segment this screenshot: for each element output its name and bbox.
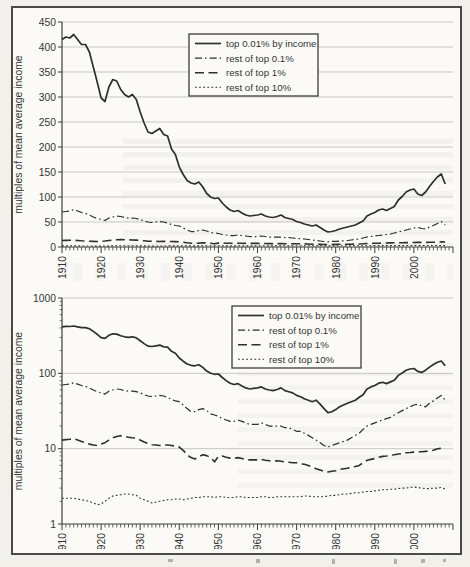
y-tick-label: 350 xyxy=(39,67,56,78)
y-tick-label: 10 xyxy=(45,443,57,454)
x-tick-label: 1910 xyxy=(57,256,68,279)
y-tick-label: 100 xyxy=(39,368,56,379)
x-tick-label: 1970 xyxy=(291,256,302,279)
cutoff-caption-remnant xyxy=(0,557,470,567)
y-tick-label: 150 xyxy=(39,167,56,178)
chart-top-linear: 0501001502002503003504004501910192019301… xyxy=(13,17,453,279)
y-tick-label: 1 xyxy=(50,519,56,530)
x-tick-label: 1990 xyxy=(370,533,381,549)
x-tick-label: 1920 xyxy=(96,256,107,279)
legend-label: rest of top 10% xyxy=(226,82,292,93)
figure-frame: 0501001502002503003504004501910192019301… xyxy=(11,6,462,555)
legend-label: rest of top 0.1% xyxy=(226,53,294,64)
x-tick-label: 1980 xyxy=(331,256,342,279)
x-tick-label: 1960 xyxy=(252,256,263,279)
x-tick-label: 1950 xyxy=(213,256,224,279)
y-tick-label: 200 xyxy=(39,142,56,153)
series-line-1 xyxy=(62,210,445,242)
x-tick-label: 1910 xyxy=(57,533,68,549)
y-tick-label: 450 xyxy=(39,17,56,28)
scanned-page: { "page": { "background": "#f2f0ea", "fr… xyxy=(0,0,470,567)
chart-bottom-log: 1101001000191019201930194019501960197019… xyxy=(13,293,453,549)
x-tick-label: 1970 xyxy=(291,533,302,549)
series-line-2 xyxy=(62,240,445,245)
legend-label: top 0.01% by income xyxy=(269,310,359,321)
y-axis-title: multiples of mean average income xyxy=(13,332,24,490)
x-tick-label: 2000 xyxy=(409,533,420,549)
stacked-income-charts: 0501001502002503003504004501910192019301… xyxy=(13,8,460,549)
x-tick-label: 1990 xyxy=(370,256,381,279)
y-tick-label: 250 xyxy=(39,117,56,128)
series-line-1 xyxy=(62,383,445,447)
x-tick-label: 1930 xyxy=(135,533,146,549)
legend-label: rest of top 10% xyxy=(269,354,335,365)
x-tick-label: 1920 xyxy=(96,533,107,549)
series-line-2 xyxy=(62,436,445,472)
legend-label: rest of top 1% xyxy=(269,339,329,350)
x-tick-label: 2000 xyxy=(409,256,420,279)
series-line-3 xyxy=(62,487,445,505)
legend-label: rest of top 1% xyxy=(226,67,286,78)
x-tick-label: 1940 xyxy=(174,256,185,279)
x-tick-label: 1940 xyxy=(174,533,185,549)
y-axis-title: multiples of mean average income xyxy=(13,55,24,213)
y-tick-label: 1000 xyxy=(33,293,56,304)
x-tick-label: 1950 xyxy=(213,533,224,549)
y-tick-label: 100 xyxy=(39,192,56,203)
x-tick-label: 1980 xyxy=(331,533,342,549)
legend: top 0.01% by incomerest of top 0.1%rest … xyxy=(189,34,318,96)
y-tick-label: 50 xyxy=(45,217,57,228)
y-tick-label: 0 xyxy=(50,242,56,253)
x-tick-label: 1960 xyxy=(252,533,263,549)
y-tick-label: 400 xyxy=(39,42,56,53)
legend-label: top 0.01% by income xyxy=(226,38,316,49)
legend: top 0.01% by incomerest of top 0.1%rest … xyxy=(232,306,361,368)
y-tick-label: 300 xyxy=(39,92,56,103)
series-line-3 xyxy=(62,245,445,246)
legend-label: rest of top 0.1% xyxy=(269,325,337,336)
x-tick-label: 1930 xyxy=(135,256,146,279)
